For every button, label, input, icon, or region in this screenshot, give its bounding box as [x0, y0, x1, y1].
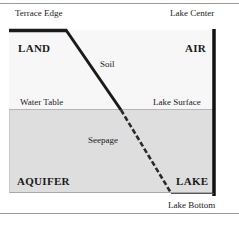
- lake-surface-label: Lake Surface: [153, 98, 201, 107]
- seepage-slope-line: [121, 110, 171, 193]
- air-zone-label: AIR: [185, 43, 206, 54]
- soil-label: Soil: [100, 60, 115, 69]
- lake-bottom-label: Lake Bottom: [168, 201, 215, 210]
- land-zone-label: LAND: [18, 43, 50, 54]
- aquifer-zone-label: AQUIFER: [17, 176, 70, 187]
- lake-zone-label: LAKE: [176, 176, 208, 187]
- water-table-label: Water Table: [20, 98, 63, 107]
- seepage-label: Seepage: [88, 136, 118, 145]
- soil-slope-line: [66, 30, 121, 110]
- bottom-rule: [0, 213, 239, 214]
